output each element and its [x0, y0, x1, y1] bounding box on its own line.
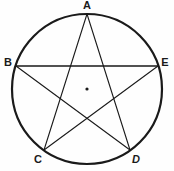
vertex-label-d: D: [132, 153, 140, 165]
vertex-label-c: C: [34, 153, 42, 165]
figure-background: [0, 0, 174, 171]
circle-center-dot: [85, 87, 88, 90]
vertex-label-e: E: [161, 56, 168, 68]
vertex-label-a: A: [83, 0, 91, 11]
vertex-label-b: B: [4, 56, 12, 68]
pentagram-in-circle-svg: ABCDE: [0, 0, 174, 171]
geometry-figure-canvas: ABCDE: [0, 0, 174, 171]
